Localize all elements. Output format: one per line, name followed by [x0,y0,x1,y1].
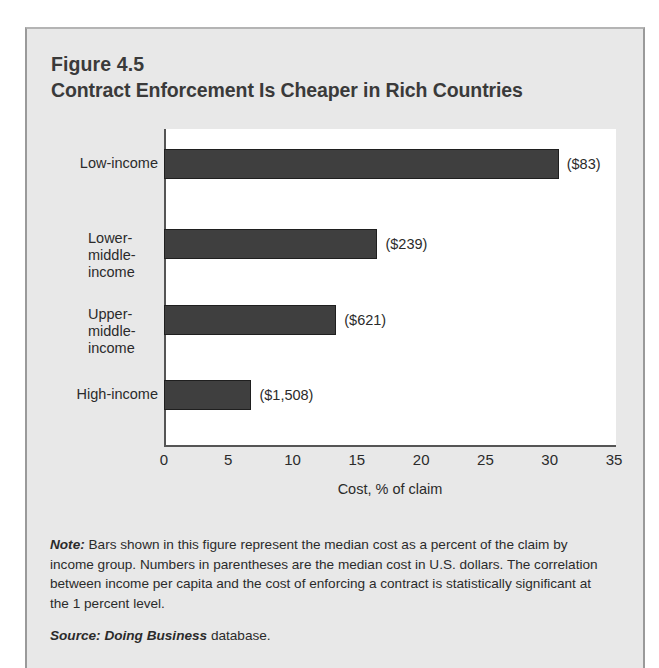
bar-value-label: ($1,508) [259,387,313,403]
source-body: database. [207,628,271,643]
x-tick-label: 25 [477,451,494,468]
category-label: Low-income [30,155,158,172]
category-label: Lower-middle-income [30,230,158,281]
bar-row: ($239) [164,229,645,259]
x-tick-label: 15 [349,451,366,468]
bar [164,149,559,179]
category-label: Upper-middle-income [30,306,158,357]
x-tick-label: 5 [224,451,232,468]
figure-number: Figure 4.5 [51,51,621,77]
note-lead: Note: [50,537,85,552]
bar-value-label: ($83) [567,156,601,172]
bar-row: ($1,508) [164,380,645,410]
figure-title: Contract Enforcement Is Cheaper in Rich … [51,77,621,103]
bar [164,229,377,259]
bar-value-label: ($239) [385,236,427,252]
bar-value-label: ($621) [344,312,386,328]
x-tick-label: 0 [160,451,168,468]
figure-source: Source: Doing Business database. [50,626,610,646]
bar-row: ($621) [164,305,645,335]
x-tick-label: 20 [413,451,430,468]
figure-note: Note: Bars shown in this figure represen… [50,535,610,613]
x-axis-title: Cost, % of claim [164,481,616,497]
figure-heading: Figure 4.5 Contract Enforcement Is Cheap… [51,51,621,103]
bar-row: ($83) [164,149,645,179]
note-body: Bars shown in this figure represent the … [50,537,598,611]
x-tick-label: 10 [284,451,301,468]
x-tick-label: 35 [606,451,623,468]
bar-chart: ($83)($239)($621)($1,508) Low-incomeLowe… [27,129,645,529]
bar [164,305,336,335]
source-lead: Source: Doing Business [50,628,207,643]
bar [164,380,251,410]
category-label: High-income [30,386,158,403]
x-tick-label: 30 [541,451,558,468]
figure-panel: Figure 4.5 Contract Enforcement Is Cheap… [25,27,645,668]
